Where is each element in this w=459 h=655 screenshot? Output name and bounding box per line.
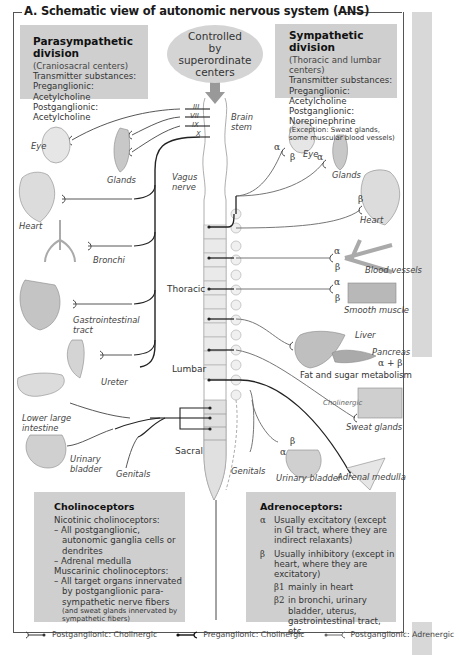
eye-alpha: α: [274, 142, 280, 152]
controlled-line-1: Controlled: [178, 30, 251, 42]
glands-alpha: α: [317, 152, 323, 162]
thoracic-label: Thoracic: [167, 284, 205, 294]
symp-sweat-glands-label: Sweat glands: [346, 423, 402, 433]
vagus-label-2: nerve: [172, 183, 196, 193]
symp-blood-vessels-label: Blood vessels: [365, 266, 422, 276]
legend-postganglionic-cholinergic: Postganglionic: Cholinergic: [24, 630, 157, 639]
symp-glands-label: Glands: [332, 171, 361, 181]
brain-stem-label-2: stem: [231, 123, 252, 133]
para-heart-label: Heart: [19, 222, 42, 232]
bladder-beta: β: [290, 436, 295, 446]
sympathetic-chain: [231, 209, 241, 400]
beta-symbol: β: [260, 549, 274, 580]
parasympathetic-subtitle: (Craniosacral centers): [33, 61, 148, 71]
ureter-icon: [67, 340, 84, 378]
symp-pancreas-label: Pancreas: [372, 348, 410, 358]
legend: Postganglionic: Cholinergic Preganglioni…: [24, 630, 459, 639]
para-eye-label: Eye: [31, 142, 46, 152]
heart-icon: [19, 172, 54, 222]
legend-postganglionic-adrenergic: Postganglionic: Adrenergic: [323, 630, 455, 639]
legend-label-1: Postganglionic: Cholinergic: [52, 630, 157, 639]
legend-label-3: Postganglionic: Adrenergic: [351, 630, 455, 639]
muscle-beta: β: [335, 293, 340, 303]
alpha-symbol: α: [260, 515, 274, 546]
postganglionic-cholinergic-icon: [24, 631, 48, 639]
smooth-muscle-icon: [348, 283, 396, 303]
muscarinic-item-1: – All target organs innervated by postga…: [62, 576, 185, 607]
para-genitals-label: Genitals: [116, 470, 150, 480]
symp-pancreas-receptors: α + β: [378, 358, 403, 368]
para-bladder-label-2: bladder: [70, 465, 102, 475]
para-glands-label: Glands: [107, 176, 136, 186]
muscarinic-note: (and sweat glands innervated by sympathe…: [62, 607, 185, 623]
sacral-region: [204, 400, 226, 500]
legend-label-2: Preganglionic: Cholinergic: [203, 630, 304, 639]
muscle-alpha: α: [334, 277, 340, 287]
sacral-label: Sacral: [175, 446, 203, 456]
sympathetic-postganglionic: Postganglionic: Norepinephrine: [289, 106, 397, 126]
symp-genitals-label: Genitals: [231, 467, 265, 477]
vessels-beta: β: [335, 262, 340, 272]
cholinoceptors-box: Cholinoceptors Nicotinic cholinoceptors:…: [34, 492, 185, 622]
glands-icon: [114, 128, 130, 172]
alpha-text: Usually excitatory (except in GI tract, …: [274, 515, 396, 546]
symp-adrenal-label: Adrenal medulla: [337, 473, 406, 483]
parasympathetic-preganglionic: Preganglionic: Acetylcholine: [33, 81, 148, 101]
symp-cholinergic-note: Cholinergic: [323, 399, 362, 407]
sympathetic-transmitters-label: Transmitter substances:: [289, 75, 397, 85]
controlled-line-2: by: [178, 42, 251, 54]
lumbar-label: Lumbar: [172, 364, 206, 374]
sympathetic-heading: Sympathetic division: [289, 29, 397, 53]
cranial-nerve-x: X: [196, 130, 201, 138]
adrenoceptors-heading: Adrenoceptors:: [260, 501, 396, 513]
heart-beta: β: [358, 194, 363, 204]
preganglionic-cholinergic-icon: [175, 631, 199, 639]
arrow-down-icon: [205, 82, 225, 104]
cranial-nerve-vii: VII: [190, 112, 199, 120]
beta1-row: β1 mainly in heart: [274, 582, 396, 592]
alpha-row: α Usually excitatory (except in GI tract…: [260, 515, 396, 546]
sympathetic-box: Sympathetic division (Thoracic and lumba…: [275, 24, 397, 98]
beta-text: Usually inhibitory (except in heart, whe…: [274, 549, 396, 580]
parasympathetic-postganglionic: Postganglionic: Acetylcholine: [33, 102, 148, 122]
beta1-symbol: β1: [274, 582, 288, 592]
nicotinic-item-1: – All postganglionic, autonomic ganglia …: [62, 525, 185, 556]
postganglionic-adrenergic-icon: [323, 631, 347, 639]
vessels-alpha: α: [334, 246, 340, 256]
symp-metabolism-label: Fat and sugar metabolism: [300, 370, 412, 380]
pancreas-icon: [332, 350, 376, 363]
urinary-bladder-icon: [26, 435, 66, 468]
adrenoceptors-box: Adrenoceptors: α Usually excitatory (exc…: [246, 492, 396, 622]
symp-smooth-muscle-label: Smooth muscle: [344, 306, 409, 316]
intestine-icon: [17, 373, 64, 396]
symp-bladder-label: Urinary bladder: [276, 474, 341, 484]
lungs-icon: [45, 220, 75, 262]
gi-tract-icon: [20, 280, 60, 330]
sympathetic-subtitle: (Thoracic and lumbar centers): [289, 55, 397, 75]
para-bronchi-label: Bronchi: [93, 256, 125, 266]
beta-row: β Usually inhibitory (except in heart, w…: [260, 549, 396, 580]
muscarinic-label: Muscarinic cholinoceptors:: [54, 566, 185, 576]
thoracic-segments: [204, 225, 226, 379]
sympathetic-preganglionic: Preganglionic: Acetylcholine: [289, 86, 397, 106]
bladder-alpha: α: [280, 447, 286, 457]
para-ureter-label: Ureter: [101, 378, 128, 388]
cranial-nerve-iii: III: [193, 103, 199, 111]
controlled-line-3: superordinate: [178, 54, 251, 66]
beta1-text: mainly in heart: [288, 582, 353, 592]
parasympathetic-transmitters-label: Transmitter substances:: [33, 71, 148, 81]
eye-beta: β: [290, 152, 295, 162]
superordinate-centers-ellipse: Controlled by superordinate centers: [167, 25, 263, 83]
sweat-glands-icon: [358, 388, 402, 418]
parasympathetic-heading: Parasympathetic division: [33, 35, 148, 59]
symp-heart-label: Heart: [360, 216, 383, 226]
symp-liver-label: Liver: [355, 331, 376, 341]
sympathetic-exception-2: some muscular blood vessels): [289, 134, 397, 142]
cholinoceptors-heading: Cholinoceptors: [54, 501, 185, 513]
controlled-line-4: centers: [178, 66, 251, 78]
parasympathetic-box: Parasympathetic division (Craniosacral c…: [20, 25, 148, 99]
nicotinic-item-2: – Adrenal medulla: [62, 556, 185, 566]
sympathetic-exception-1: (Exception: Sweat glands,: [289, 126, 397, 134]
nicotinic-label: Nicotinic cholinoceptors:: [54, 515, 185, 525]
